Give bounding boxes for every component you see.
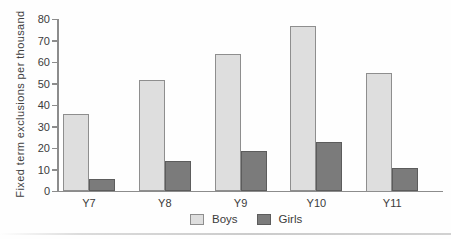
y-tick-50: [52, 83, 57, 85]
scan-artifact-line: [0, 233, 451, 235]
x-axis-label-y11: Y11: [370, 197, 414, 209]
y-tick-10: [52, 169, 57, 171]
bar-girls-y9: [241, 151, 267, 192]
y-tick-20: [52, 148, 57, 150]
bar-boys-y7: [63, 114, 89, 191]
bar-boys-y11: [366, 73, 392, 191]
y-tick-label-80: 80: [20, 14, 50, 25]
bar-girls-y10: [316, 142, 342, 191]
legend-label-girls: Girls: [279, 213, 303, 225]
y-tick-70: [52, 40, 57, 42]
y-tick-label-70: 70: [20, 36, 50, 47]
y-tick-40: [52, 105, 57, 107]
y-tick-label-20: 20: [20, 143, 50, 154]
bar-girls-y8: [165, 161, 191, 191]
legend-item-boys: Boys: [190, 213, 238, 225]
y-axis-line: [57, 19, 59, 192]
y-tick-label-30: 30: [20, 122, 50, 133]
legend-label-boys: Boys: [212, 213, 238, 225]
bar-boys-y9: [215, 54, 241, 192]
x-axis-label-y9: Y9: [219, 197, 263, 209]
y-tick-80: [52, 19, 57, 21]
bar-chart: Fixed term exclusions per thousand 01020…: [0, 0, 451, 239]
bar-boys-y10: [290, 26, 316, 192]
y-tick-label-40: 40: [20, 100, 50, 111]
bar-boys-y8: [139, 80, 165, 192]
y-tick-30: [52, 126, 57, 128]
legend-swatch-boys: [190, 214, 204, 225]
y-tick-label-0: 0: [20, 186, 50, 197]
y-tick-60: [52, 62, 57, 64]
bar-girls-y7: [89, 179, 115, 192]
legend: BoysGirls: [190, 213, 302, 225]
y-tick-label-10: 10: [20, 165, 50, 176]
y-tick-label-60: 60: [20, 57, 50, 68]
x-axis-label-y8: Y8: [143, 197, 187, 209]
y-tick-0: [52, 191, 57, 193]
legend-swatch-girls: [257, 214, 271, 225]
y-tick-label-50: 50: [20, 79, 50, 90]
x-axis-label-y10: Y10: [294, 197, 338, 209]
bar-girls-y11: [392, 168, 418, 192]
x-axis-label-y7: Y7: [67, 197, 111, 209]
legend-item-girls: Girls: [257, 213, 303, 225]
